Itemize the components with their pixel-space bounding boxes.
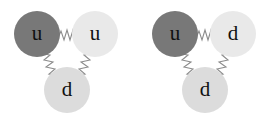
hadron-neutron: u d d — [138, 0, 273, 124]
quark-label: u — [170, 21, 181, 45]
quark-label: u — [32, 21, 43, 45]
quark-label: d — [228, 21, 239, 45]
quark-label: d — [200, 77, 211, 101]
quark-label: u — [90, 21, 101, 45]
proton-quark-right: u — [72, 11, 118, 57]
hadron-proton: u u d — [0, 0, 137, 124]
proton-diagram: u u d — [0, 0, 137, 124]
quark-label: d — [62, 77, 73, 101]
quark-model-figure: u u d u d — [0, 0, 273, 124]
neutron-quark-left: u — [152, 11, 198, 57]
proton-quark-left: u — [14, 11, 60, 57]
neutron-quark-bottom: d — [182, 67, 228, 113]
neutron-quark-right: d — [210, 11, 256, 57]
proton-quark-bottom: d — [44, 67, 90, 113]
neutron-diagram: u d d — [138, 0, 273, 124]
